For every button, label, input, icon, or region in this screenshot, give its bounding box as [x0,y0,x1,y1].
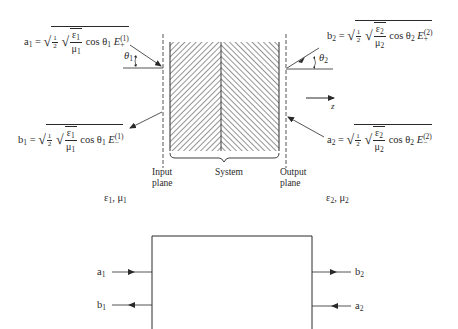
system-brace [170,153,279,162]
input-plane-label: Input plane [152,167,173,189]
theta1-label: θ1 [124,50,133,64]
port-b2-label: b2 [355,266,364,280]
formula-b1: b1 = √ 12 √ε1μ1 cos θ1 E(1)− [18,124,123,155]
hatch-right-region [221,42,279,151]
formula-a2: a2 = √ 12 √ε2μ2 cos θ2 E(2)− [327,124,432,155]
formula-b2: b2 = √ 12 √ε2μ2 cos θ2 E(2)+ [327,20,432,51]
output-plane-label: Output plane [280,167,306,189]
system-label: System [215,167,243,178]
hatch-left-region [170,42,221,151]
two-port-network [112,236,351,329]
formula-a1: a1 = √ 12 √ε1μ1 cos θ1 E(1)+ [24,26,129,57]
a2-incoming-ray [288,117,324,137]
right-medium-label: ε2, μ2 [326,192,349,206]
b1-reflected-ray [130,112,162,128]
a1-incident-ray [130,45,161,66]
z-axis-label: z [331,101,335,111]
left-medium-label: ε1, μ1 [104,192,127,206]
theta2-label: θ2 [319,52,328,66]
port-b1-label: b1 [97,299,106,313]
port-a1-label: a1 [97,266,105,280]
system-slab [170,42,279,151]
port-a2-label: a2 [355,300,363,314]
